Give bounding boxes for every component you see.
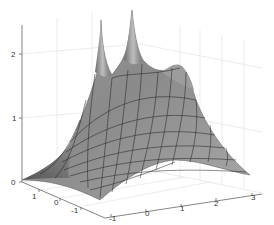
x-tick-label: 1: [180, 204, 185, 213]
surface: [22, 10, 250, 200]
surface-plot: 2 1 0 1 0 -1 -1 0 1 2 3: [0, 0, 274, 225]
z-tick-label: 2: [11, 50, 16, 59]
x-tick-label: 2: [214, 199, 219, 208]
x-tick-labels: -1 0 1 2 3: [109, 193, 256, 223]
y-tick-label: -1: [71, 206, 79, 215]
x-tick-label: -1: [109, 214, 117, 223]
y-tick-label: 1: [32, 192, 37, 201]
x-tick-label: 3: [251, 193, 256, 202]
z-tick-labels: 2 1 0: [11, 50, 17, 187]
y-tick-label: 0: [54, 198, 59, 207]
x-tick-label: 0: [145, 209, 150, 218]
z-tick-label: 0: [11, 178, 16, 187]
z-tick-label: 1: [12, 114, 17, 123]
